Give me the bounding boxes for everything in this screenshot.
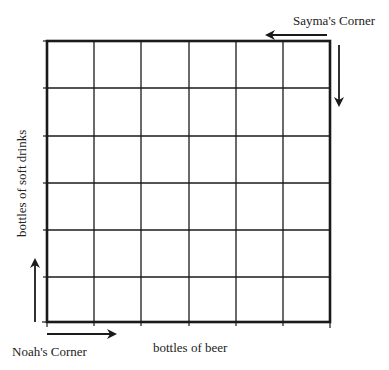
sayma-corner-label: Sayma's Corner bbox=[293, 13, 375, 29]
grid-inner-lines bbox=[47, 41, 330, 322]
grid-svg bbox=[0, 0, 389, 370]
y-axis-label: bottles of soft drinks bbox=[14, 130, 30, 237]
noah-corner-label: Noah's Corner bbox=[12, 344, 87, 360]
edgeworth-box-diagram: Sayma's Corner Noah's Corner bottles of … bbox=[0, 0, 389, 370]
grid-ticks bbox=[42, 41, 330, 328]
x-axis-label: bottles of beer bbox=[153, 340, 227, 356]
